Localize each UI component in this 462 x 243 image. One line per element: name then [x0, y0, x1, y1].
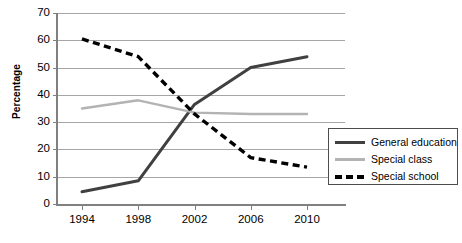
x-tick-mark — [251, 205, 252, 210]
series-line-general-education — [82, 57, 307, 192]
legend: General education Special class Special … — [328, 128, 458, 185]
legend-label-general-education: General education — [371, 137, 457, 148]
legend-swatch-special-school-icon — [335, 171, 365, 182]
y-tick-label: 70 — [24, 7, 50, 19]
x-tick-mark — [307, 205, 308, 210]
y-axis-title: Percentage — [11, 50, 22, 134]
legend-swatch-general-education-icon — [335, 137, 365, 148]
series-line-special-class — [82, 100, 307, 114]
y-tick-label: 30 — [24, 116, 50, 128]
legend-item-special-class[interactable]: Special class — [335, 151, 457, 168]
x-tick-label: 1998 — [115, 214, 161, 226]
legend-label-special-class: Special class — [371, 154, 432, 165]
y-tick-label: 40 — [24, 89, 50, 101]
x-tick-mark — [195, 205, 196, 210]
y-tick-label: 20 — [24, 143, 50, 155]
chart-figure: Percentage 010203040506070 1994199820022… — [0, 0, 462, 243]
x-tick-label: 1994 — [59, 214, 105, 226]
plot-area — [57, 13, 345, 204]
data-series-layer — [57, 13, 345, 204]
x-tick-mark — [138, 205, 139, 210]
y-tick-label: 50 — [24, 62, 50, 74]
legend-item-general-education[interactable]: General education — [335, 134, 457, 151]
y-tick-label: 10 — [24, 171, 50, 183]
x-tick-label: 2006 — [228, 214, 274, 226]
legend-label-special-school: Special school — [371, 171, 439, 182]
x-axis-line — [56, 204, 346, 206]
x-tick-mark — [82, 205, 83, 210]
legend-item-special-school[interactable]: Special school — [335, 168, 457, 185]
y-tick-label: 0 — [24, 198, 50, 210]
y-tick-label: 60 — [24, 34, 50, 46]
x-tick-label: 2002 — [172, 214, 218, 226]
legend-swatch-special-class-icon — [335, 154, 365, 165]
x-tick-label: 2010 — [284, 214, 330, 226]
